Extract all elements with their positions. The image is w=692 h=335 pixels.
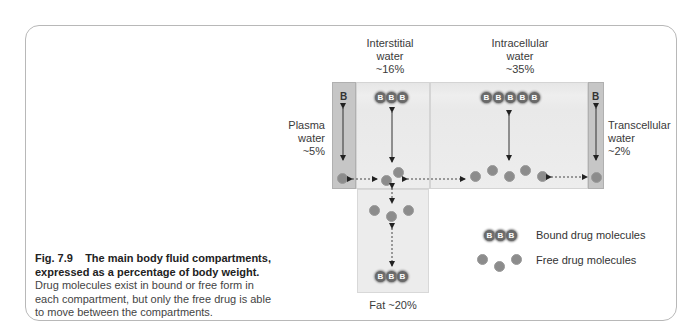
legend-bound-molecule: B	[506, 230, 517, 241]
figure-number: Fig. 7.9	[35, 252, 73, 264]
caption-title-line2: expressed as a percentage of body weight…	[35, 266, 259, 278]
caption-body: Drug molecules exist in bound or free fo…	[35, 279, 275, 320]
legend-free-molecule	[494, 261, 505, 272]
legend-bound-molecule: B	[495, 230, 506, 241]
legend-free-molecule	[477, 254, 488, 265]
caption-title: Fig. 7.9 The main body fluid compartment…	[35, 252, 275, 279]
legend-bound-label: Bound drug molecules	[536, 229, 645, 241]
figure-caption: Fig. 7.9 The main body fluid compartment…	[35, 252, 275, 320]
caption-title-line1: The main body fluid compartments,	[85, 252, 271, 264]
legend-free-molecule	[511, 254, 522, 265]
legend-bound-molecule: B	[484, 230, 495, 241]
legend-free-label: Free drug molecules	[536, 254, 636, 266]
